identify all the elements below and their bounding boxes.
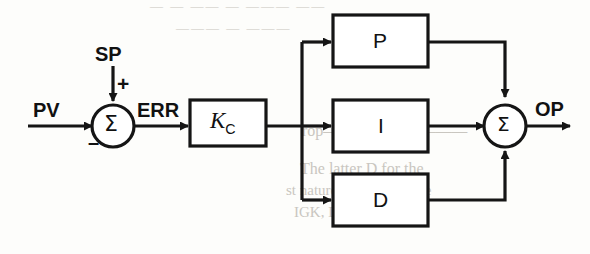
gain-block-label-text: K: [210, 108, 225, 133]
integral-block-label: I: [378, 114, 384, 138]
err-label: ERR: [137, 99, 179, 122]
derivative-block-label: D: [373, 188, 388, 212]
sigma-glyph-left: Σ: [104, 111, 118, 136]
pid-block-diagram: — — —— — ——— —— ——— — ——— rop————————— T…: [0, 0, 590, 254]
gain-block-label-subscript: C: [225, 121, 235, 137]
plus-sign-label: +: [117, 72, 129, 96]
sigma-glyph-right: Σ: [497, 112, 510, 136]
pv-label: PV: [33, 99, 60, 122]
wire-d-out: [428, 151, 505, 200]
gain-block-label: KC: [210, 108, 236, 137]
wire-p-out: [428, 42, 505, 97]
minus-sign-label: –: [88, 131, 99, 154]
sp-label: SP: [95, 43, 122, 66]
op-label: OP: [535, 98, 564, 121]
proportional-block-label: P: [373, 29, 387, 53]
